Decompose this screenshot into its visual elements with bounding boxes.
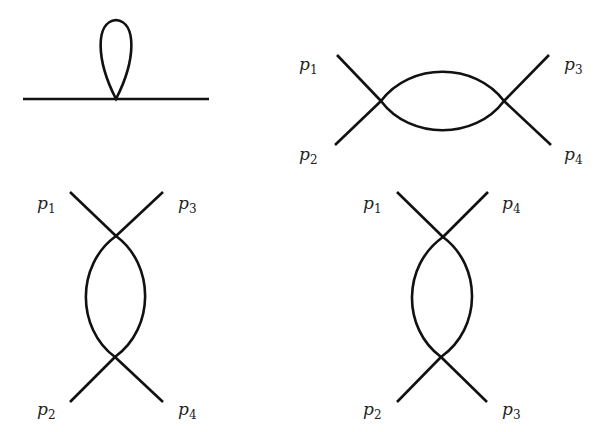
external-leg-p3 <box>504 55 549 101</box>
external-leg-p4 <box>443 192 488 237</box>
feynman-diagrams-figure: p1 p2 p3 p4 p1 p3 p2 p4 p1 p4 p2 p3 <box>0 0 610 432</box>
u-channel-diagram: p1 p4 p2 p3 <box>363 192 521 422</box>
label-p2: p2 <box>363 399 382 422</box>
label-p3: p3 <box>502 399 521 422</box>
label-p4: p4 <box>564 144 583 167</box>
label-p4: p4 <box>502 193 521 216</box>
label-p1: p1 <box>299 54 318 77</box>
loop-upper-arc <box>381 72 504 101</box>
loop-right-arc <box>115 236 145 357</box>
loop-right-arc <box>441 237 472 357</box>
label-p3: p3 <box>178 193 197 216</box>
label-p4: p4 <box>178 399 197 422</box>
label-p2: p2 <box>299 144 318 167</box>
external-leg-p4 <box>504 101 551 145</box>
label-p3: p3 <box>564 54 583 77</box>
loop-lower-arc <box>381 101 504 130</box>
loop-left-arc <box>86 236 116 357</box>
external-leg-p3 <box>441 357 487 402</box>
external-leg-p1 <box>70 192 116 236</box>
label-p1: p1 <box>363 193 382 216</box>
external-leg-p3 <box>116 192 163 236</box>
external-leg-p2 <box>397 357 441 402</box>
tadpole-loop <box>101 20 132 99</box>
external-leg-p4 <box>115 357 163 402</box>
label-p2: p2 <box>37 399 56 422</box>
external-leg-p1 <box>397 192 443 237</box>
s-channel-diagram: p1 p2 p3 p4 <box>299 54 583 167</box>
tadpole-diagram <box>23 20 209 99</box>
label-p1: p1 <box>37 193 56 216</box>
external-leg-p1 <box>337 55 381 101</box>
external-leg-p2 <box>335 101 381 145</box>
external-leg-p2 <box>70 357 115 402</box>
t-channel-diagram: p1 p3 p2 p4 <box>37 192 197 422</box>
loop-left-arc <box>412 237 443 357</box>
